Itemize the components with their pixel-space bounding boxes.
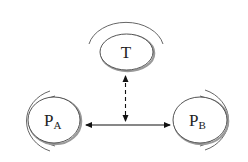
node-pa: PA — [27, 91, 82, 151]
node-pb: PB — [173, 90, 228, 150]
diagram-canvas: T PA PB — [0, 0, 248, 162]
node-t-label: T — [121, 43, 132, 62]
diagram-svg: T PA PB — [0, 0, 248, 162]
node-t: T — [89, 22, 163, 71]
